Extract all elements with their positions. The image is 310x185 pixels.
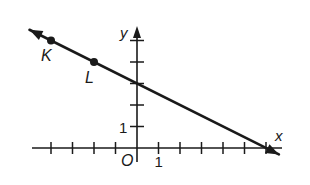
- point-label-L: L: [85, 69, 94, 86]
- line-graph: [30, 30, 279, 155]
- points: KL: [41, 37, 98, 87]
- line-KL: [30, 30, 279, 155]
- origin-label: O: [121, 152, 133, 169]
- x-axis-label: x: [274, 127, 283, 144]
- line-arrow-left-icon: [30, 30, 44, 40]
- y-axis-arrow-icon: [133, 26, 141, 38]
- point-L: [90, 58, 98, 66]
- coordinate-plane-diagram: KL x y O 1 1: [0, 0, 310, 185]
- y-tick-label-1: 1: [119, 119, 127, 136]
- point-K: [47, 37, 55, 45]
- y-axis-label: y: [119, 24, 129, 41]
- x-tick-label-1: 1: [155, 153, 163, 170]
- point-label-K: K: [41, 47, 53, 64]
- line-arrow-right-icon: [265, 144, 279, 154]
